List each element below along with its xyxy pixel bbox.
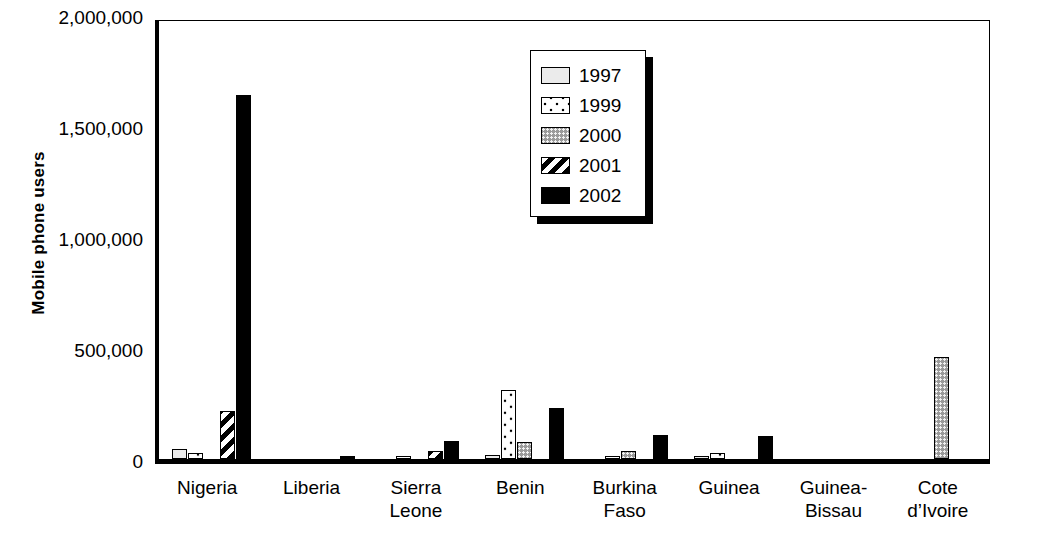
chart-legend: 19971999200020012002 xyxy=(530,50,646,217)
legend-swatch-1997 xyxy=(541,67,570,84)
bar-sierra-leone-1999 xyxy=(396,456,411,459)
bar-guinea-2002 xyxy=(758,436,773,459)
legend-item-2000: 2000 xyxy=(541,120,645,150)
legend-label: 1997 xyxy=(579,66,621,85)
bar-cote-d’ivoire-2000 xyxy=(934,357,949,459)
legend-label: 2001 xyxy=(579,156,621,175)
bar-burkina-faso-2002 xyxy=(653,435,668,459)
bar-nigeria-2002 xyxy=(236,95,251,459)
bar-chart-figure: Mobile phone users 0500,0001,000,0001,50… xyxy=(0,0,1040,545)
legend-item-1999: 1999 xyxy=(541,90,645,120)
bar-benin-2000 xyxy=(517,442,532,459)
legend-swatch-2001 xyxy=(541,157,570,174)
bar-sierra-leone-2002 xyxy=(444,441,459,459)
bar-benin-1999 xyxy=(501,390,516,459)
x-tick-label: Liberia xyxy=(259,476,363,499)
bar-sierra-leone-2001 xyxy=(428,451,443,459)
legend-label: 2000 xyxy=(579,126,621,145)
bar-burkina-faso-2000 xyxy=(621,451,636,459)
y-tick-label: 0 xyxy=(0,451,143,473)
x-tick-label: Guinea xyxy=(677,476,781,499)
legend-item-2001: 2001 xyxy=(541,150,645,180)
legend-swatch-2002 xyxy=(541,187,570,204)
legend-item-2002: 2002 xyxy=(541,180,645,210)
legend-label: 2002 xyxy=(579,186,621,205)
x-tick-label: Cote d’Ivoire xyxy=(886,476,990,522)
bar-benin-1997 xyxy=(485,455,500,459)
bar-nigeria-1999 xyxy=(188,453,203,459)
legend-label: 1999 xyxy=(579,96,621,115)
bar-liberia-2002 xyxy=(340,456,355,459)
x-tick-label: Guinea- Bissau xyxy=(781,476,885,522)
y-tick-label: 500,000 xyxy=(0,340,143,362)
x-tick-label: Burkina Faso xyxy=(573,476,677,522)
legend-swatch-2000 xyxy=(541,127,570,144)
bar-nigeria-2001 xyxy=(220,411,235,459)
y-tick-label: 2,000,000 xyxy=(0,7,143,29)
bar-nigeria-1997 xyxy=(172,449,187,459)
bar-benin-2002 xyxy=(549,408,564,459)
x-tick-label: Nigeria xyxy=(155,476,259,499)
legend-item-1997: 1997 xyxy=(541,60,645,90)
bar-guinea-1997 xyxy=(694,456,709,459)
bar-guinea-1999 xyxy=(710,453,725,459)
x-tick-label: Benin xyxy=(468,476,572,499)
bar-burkina-faso-1999 xyxy=(605,456,620,459)
legend-swatch-1999 xyxy=(541,97,570,114)
x-tick-label: Sierra Leone xyxy=(364,476,468,522)
y-tick-label: 1,000,000 xyxy=(0,229,143,251)
y-tick-label: 1,500,000 xyxy=(0,118,143,140)
